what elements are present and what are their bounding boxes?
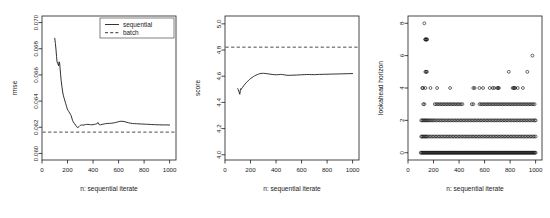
- y-tick-label: 6: [398, 53, 405, 57]
- y-tick-label: 4.8: [215, 45, 222, 54]
- scatter-point: [449, 87, 452, 90]
- panel-horizon: 0200400600800100002468n: sequential iter…: [366, 0, 549, 218]
- y-tick-label: 2: [398, 118, 405, 122]
- legend-label-batch: batch: [123, 29, 139, 36]
- scatter-point: [531, 54, 534, 57]
- x-tick-label: 400: [271, 166, 282, 173]
- x-tick-label: 800: [505, 166, 516, 173]
- scatter-point: [436, 87, 439, 90]
- scatter-point: [526, 70, 529, 73]
- panel-rmse: 020040060080010000.0600.0620.0640.0660.0…: [0, 0, 183, 218]
- scatter-points: [419, 22, 537, 154]
- y-axis-title: score: [194, 80, 201, 96]
- panel-score: 020040060080010004.04.24.44.64.85.0n: se…: [183, 0, 366, 218]
- y-tick-label: 8: [398, 21, 405, 25]
- y-tick-label: 4.6: [215, 71, 222, 80]
- figure-root: 020040060080010000.0600.0620.0640.0660.0…: [0, 0, 550, 218]
- plot-frame: [225, 16, 359, 160]
- x-tick-label: 800: [322, 166, 333, 173]
- y-tick-label: 0.064: [32, 93, 39, 109]
- y-tick-label: 0.068: [32, 40, 39, 56]
- y-axis-title: lookahead horizon: [377, 61, 384, 115]
- x-tick-label: 800: [139, 166, 150, 173]
- scatter-point: [488, 87, 491, 90]
- y-tick-label: 4: [398, 86, 405, 90]
- plot-rmse-vs-iterate: 020040060080010000.0600.0620.0640.0660.0…: [0, 0, 183, 218]
- y-tick-label: 0.060: [32, 145, 39, 161]
- series-line-sequential: [55, 38, 170, 127]
- y-tick-label: 0.066: [32, 67, 39, 83]
- x-tick-label: 400: [454, 166, 465, 173]
- x-axis-title: n: sequential iterate: [446, 185, 504, 193]
- x-tick-label: 600: [113, 166, 124, 173]
- x-tick-label: 400: [88, 166, 99, 173]
- y-tick-label: 4.4: [215, 98, 222, 107]
- scatter-point: [478, 87, 481, 90]
- plot-lookahead-horizon-vs-iterate: 0200400600800100002468n: sequential iter…: [366, 0, 549, 218]
- plot-score-vs-iterate: 020040060080010004.04.24.44.64.85.0n: se…: [183, 0, 366, 218]
- x-tick-label: 200: [428, 166, 439, 173]
- x-tick-label: 0: [40, 166, 44, 173]
- scatter-point: [482, 87, 485, 90]
- x-tick-label: 600: [296, 166, 307, 173]
- y-tick-label: 4.2: [215, 124, 222, 133]
- y-axis-title: rmse: [11, 80, 18, 95]
- x-axis-title: n: sequential iterate: [80, 185, 138, 193]
- x-tick-label: 0: [406, 166, 410, 173]
- scatter-point: [507, 70, 510, 73]
- legend-label-sequential: sequential: [123, 21, 152, 29]
- y-tick-label: 0.070: [32, 14, 39, 30]
- y-tick-label: 5.0: [215, 19, 222, 28]
- x-tick-label: 1000: [346, 166, 360, 173]
- scatter-point: [521, 87, 524, 90]
- x-tick-label: 0: [223, 166, 227, 173]
- scatter-point: [429, 87, 432, 90]
- y-tick-label: 0.062: [32, 119, 39, 135]
- scatter-point: [423, 22, 426, 25]
- x-tick-label: 200: [62, 166, 73, 173]
- x-tick-label: 1000: [163, 166, 177, 173]
- y-tick-label: 4.0: [215, 150, 222, 159]
- series-line-sequential: [238, 73, 353, 94]
- x-axis-title: n: sequential iterate: [263, 185, 321, 193]
- x-tick-label: 1000: [529, 166, 543, 173]
- y-tick-label: 0: [398, 150, 405, 154]
- x-tick-label: 600: [479, 166, 490, 173]
- x-tick-label: 200: [245, 166, 256, 173]
